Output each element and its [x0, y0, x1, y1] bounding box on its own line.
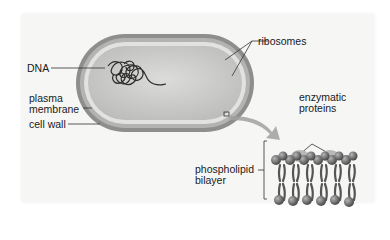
label-phospholipid-bilayer-2: bilayer: [195, 175, 226, 186]
label-cell-wall: cell wall: [29, 119, 66, 130]
label-dna: DNA: [27, 63, 49, 74]
cytoplasm: [88, 46, 242, 120]
label-ribosomes: ribosomes: [258, 36, 306, 47]
magnify-arrow: [228, 116, 280, 140]
phospholipid-bilayer-icon: [271, 150, 358, 207]
label-plasma-membrane-2: membrane: [29, 104, 79, 115]
label-enzymatic-proteins-2: proteins: [299, 103, 336, 114]
